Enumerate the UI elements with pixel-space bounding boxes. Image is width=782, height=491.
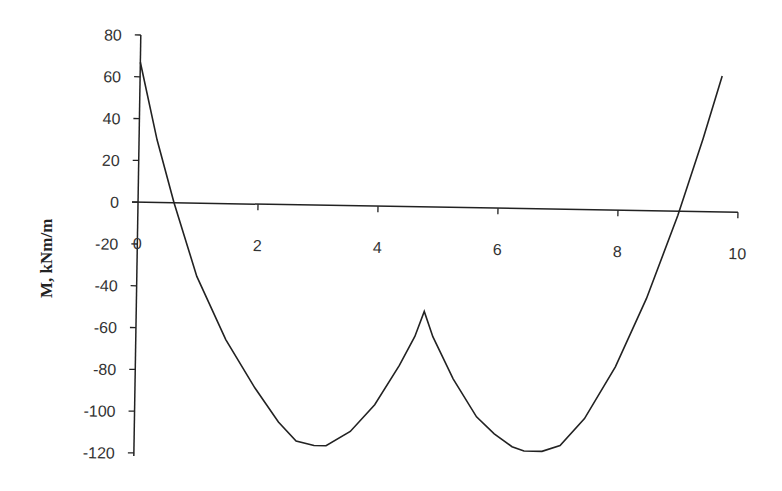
x-tick-label: 4 xyxy=(373,239,382,256)
y-tick-label: 20 xyxy=(102,152,120,169)
x-tick-label: 2 xyxy=(253,237,262,254)
y-tick-label: -100 xyxy=(83,402,115,420)
y-tick-label: -20 xyxy=(95,235,119,252)
moment-chart: 806040200-20-40-60-80-100-120 0246810 M,… xyxy=(0,0,782,491)
y-tick-label: -40 xyxy=(94,277,118,294)
x-tick-label: 0 xyxy=(133,235,142,252)
y-tick-label: 40 xyxy=(102,110,120,127)
y-tick-label: -80 xyxy=(93,361,117,378)
x-tick-label: 10 xyxy=(728,245,746,262)
moment-curve xyxy=(134,62,722,454)
y-tick-label: -60 xyxy=(94,319,118,336)
x-axis-line xyxy=(132,202,738,212)
y-tick-label: 60 xyxy=(103,68,121,85)
x-tick-label: 6 xyxy=(493,241,502,258)
y-tick-label: -120 xyxy=(83,444,115,462)
y-tick-label: 0 xyxy=(110,194,119,211)
x-tick-label: 8 xyxy=(613,243,622,260)
y-axis-title: M, kNm/m xyxy=(37,219,56,298)
plot-area: 806040200-20-40-60-80-100-120 0246810 xyxy=(83,26,750,472)
y-tick-label: 80 xyxy=(104,26,122,43)
